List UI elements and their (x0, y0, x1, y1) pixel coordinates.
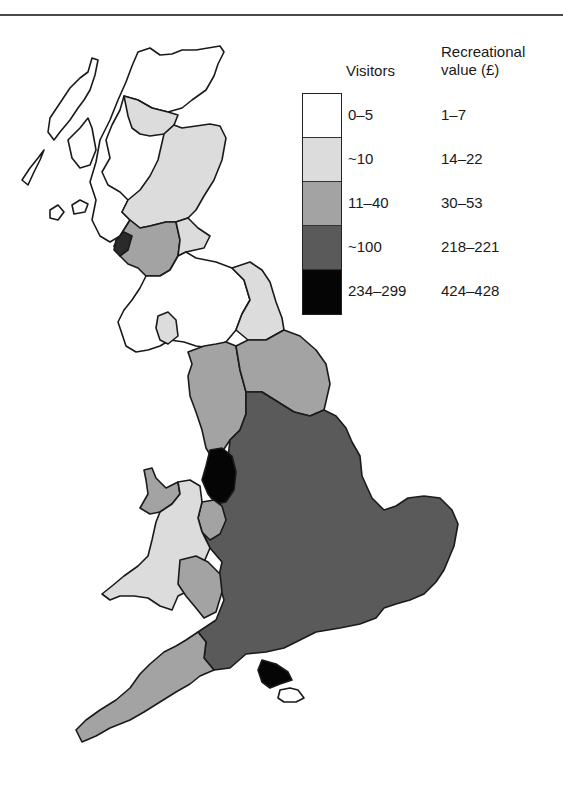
legend-value-4: 424–428 (441, 282, 499, 300)
region-manchester-merseyside (202, 448, 236, 504)
legend-swatch-1 (303, 138, 341, 182)
legend-value-0: 1–7 (441, 106, 466, 124)
region-south-west (76, 632, 214, 742)
legend-visitors-4: 234–299 (348, 282, 406, 300)
legend-visitors-header: Visitors (346, 62, 395, 80)
legend-value-2: 30–53 (441, 194, 483, 212)
region-isle-of-wight (278, 688, 304, 702)
legend-visitors-2: 11–40 (348, 194, 389, 212)
region-north-east-scotland (122, 124, 226, 228)
legend-visitors-1: ~10 (348, 150, 373, 168)
region-hereford (178, 556, 222, 618)
legend-swatch-0 (303, 94, 341, 138)
legend-value-3: 218–221 (441, 238, 499, 256)
legend-value-header-line2: value (£) (441, 61, 551, 79)
legend-swatch-3 (303, 226, 341, 270)
legend-value-header: Recreational value (£) (441, 43, 551, 79)
legend-visitors-0: 0–5 (348, 106, 373, 124)
region-outer-hebrides-south (22, 150, 44, 185)
map-great-britain (0, 0, 563, 794)
region-skye (68, 118, 96, 168)
legend-value-1: 14–22 (441, 150, 483, 168)
region-lothian (176, 218, 210, 256)
legend-visitors-3: ~100 (348, 238, 382, 256)
region-england-main (198, 392, 458, 670)
region-islay (50, 205, 64, 220)
legend-value-header-line1: Recreational (441, 43, 551, 61)
legend-swatches (302, 93, 342, 315)
region-hampshire (258, 660, 292, 688)
legend-swatch-4 (303, 270, 341, 314)
legend-swatch-2 (303, 182, 341, 226)
region-mull (72, 200, 88, 214)
